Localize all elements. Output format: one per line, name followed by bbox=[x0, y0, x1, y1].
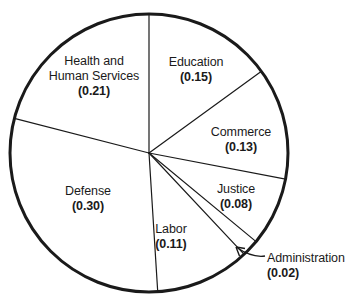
slice-label-labor-name: Labor bbox=[155, 222, 186, 237]
slice-label-justice: Justice (0.08) bbox=[217, 182, 255, 212]
slice-label-education-name: Education bbox=[169, 55, 224, 70]
slice-label-commerce-name: Commerce bbox=[211, 125, 271, 140]
slice-label-labor-value: (0.11) bbox=[155, 237, 186, 252]
slice-label-hhs-name-line-1: Health and bbox=[49, 54, 139, 69]
slice-label-defense: Defense (0.30) bbox=[65, 184, 111, 214]
pie-chart: Education (0.15) Commerce (0.13) Justice… bbox=[0, 0, 356, 306]
slice-label-justice-value: (0.08) bbox=[217, 197, 255, 212]
slice-label-health-and-human-services: Health and Human Services (0.21) bbox=[49, 54, 139, 98]
slice-label-commerce: Commerce (0.13) bbox=[211, 125, 271, 155]
slice-label-labor: Labor (0.11) bbox=[155, 222, 186, 252]
slice-label-hhs-value: (0.21) bbox=[49, 84, 139, 99]
slice-label-hhs-name-line-2: Human Services bbox=[49, 69, 139, 84]
slice-label-administration: Administration (0.02) bbox=[267, 251, 345, 281]
slice-label-administration-name: Administration bbox=[267, 251, 345, 266]
slice-label-defense-value: (0.30) bbox=[65, 199, 111, 214]
slice-label-education-value: (0.15) bbox=[169, 70, 224, 85]
slice-label-education: Education (0.15) bbox=[169, 55, 224, 85]
slice-label-administration-value: (0.02) bbox=[267, 266, 345, 281]
slice-label-commerce-value: (0.13) bbox=[211, 140, 271, 155]
slice-label-justice-name: Justice bbox=[217, 182, 255, 197]
slice-label-defense-name: Defense bbox=[65, 184, 111, 199]
